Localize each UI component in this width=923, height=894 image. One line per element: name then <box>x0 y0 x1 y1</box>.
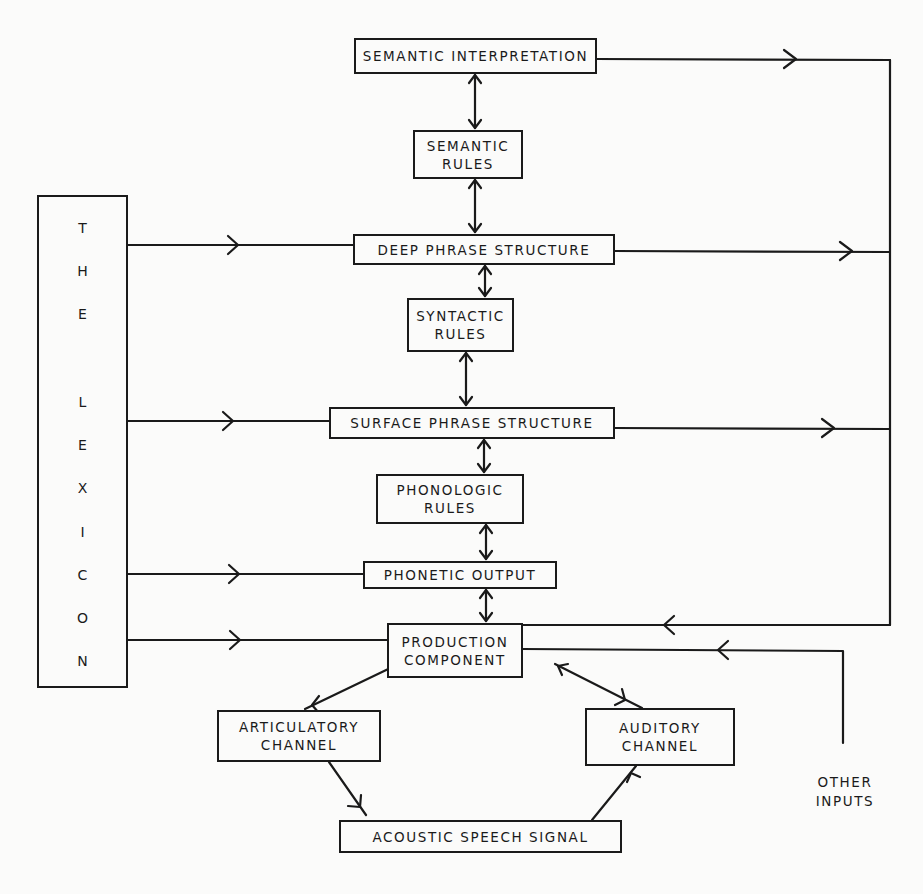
semantic-rules-box: SEMANTIC RULES <box>413 130 523 179</box>
other-inputs-line: OTHER <box>800 773 890 792</box>
node-label: RULES <box>424 499 476 517</box>
articulatory-channel-box: ARTICULATORY CHANNEL <box>217 710 381 762</box>
node-label: PHONOLOGIC <box>396 481 503 499</box>
lexicon-letter: E <box>39 437 126 453</box>
node-label: PRODUCTION <box>402 633 509 651</box>
acoustic-speech-signal-box: ACOUSTIC SPEECH SIGNAL <box>339 820 622 853</box>
node-label: ACOUSTIC SPEECH SIGNAL <box>372 828 588 846</box>
node-label: DEEP PHRASE STRUCTURE <box>378 241 591 259</box>
node-label: CHANNEL <box>261 736 337 754</box>
node-label: AUDITORY <box>619 719 701 737</box>
speech-production-diagram: T H E L E X I C O N SEMANTIC INTERPRETAT… <box>0 0 923 894</box>
deep-phrase-structure-box: DEEP PHRASE STRUCTURE <box>353 234 615 265</box>
node-label: COMPONENT <box>404 651 506 669</box>
lexicon-letter: C <box>39 567 126 583</box>
lexicon-letter: N <box>39 653 126 669</box>
node-label: ARTICULATORY <box>239 718 359 736</box>
node-label: SYNTACTIC <box>416 307 505 325</box>
node-label: PHONETIC OUTPUT <box>384 566 537 584</box>
other-inputs-line: INPUTS <box>800 792 890 811</box>
node-label: SEMANTIC INTERPRETATION <box>363 47 588 65</box>
surface-phrase-structure-box: SURFACE PHRASE STRUCTURE <box>329 407 615 439</box>
lexicon-connectors <box>127 236 387 649</box>
lexicon-letter: H <box>39 263 126 279</box>
lexicon-letter: O <box>39 610 126 626</box>
lexicon-letter: T <box>39 220 126 236</box>
lexicon-letter: I <box>39 524 126 540</box>
phonologic-rules-box: PHONOLOGIC RULES <box>376 474 524 524</box>
syntactic-rules-box: SYNTACTIC RULES <box>407 298 514 352</box>
right-bus-connectors <box>522 50 890 634</box>
node-label: RULES <box>435 325 487 343</box>
node-label: RULES <box>442 155 494 173</box>
other-inputs-label: OTHER INPUTS <box>800 773 890 811</box>
node-label: CHANNEL <box>622 737 698 755</box>
node-label: SURFACE PHRASE STRUCTURE <box>350 414 593 432</box>
production-component-box: PRODUCTION COMPONENT <box>387 623 523 678</box>
node-label: SEMANTIC <box>427 137 510 155</box>
lexicon-letter: E <box>39 306 126 322</box>
auditory-channel-box: AUDITORY CHANNEL <box>585 708 735 766</box>
lexicon-box: T H E L E X I C O N <box>37 195 128 688</box>
semantic-interpretation-box: SEMANTIC INTERPRETATION <box>354 38 597 74</box>
lexicon-letter: L <box>39 394 126 410</box>
lexicon-letter: X <box>39 480 126 496</box>
phonetic-output-box: PHONETIC OUTPUT <box>363 561 557 589</box>
